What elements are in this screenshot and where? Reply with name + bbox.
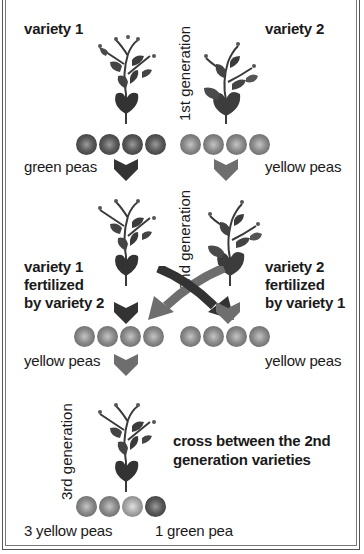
yellow-pea (203, 134, 224, 155)
three-yellow-peas-label: 3 yellow peas (24, 522, 112, 539)
yellow-pea (74, 326, 95, 347)
one-green-pea-label: 1 green pea (155, 522, 233, 539)
gen2-left-label-line: fertilized (24, 276, 84, 293)
gen2-left-peas-label: yellow peas (24, 352, 100, 369)
yellow-pea (99, 496, 120, 517)
down-arrow-icon (114, 159, 138, 181)
yellow-pea (180, 326, 201, 347)
variety-2-label: variety 2 (265, 20, 324, 37)
yellow-pea (249, 134, 270, 155)
yellow-peas-label: yellow peas (265, 158, 341, 175)
down-arrow-icon (216, 302, 240, 324)
green-pea (76, 134, 97, 155)
yellow-pea (122, 496, 143, 517)
gen2-right-peas-label: yellow peas (265, 352, 341, 369)
gen3-description-line: generation varieties (173, 451, 311, 468)
down-arrow-icon (114, 302, 138, 324)
gen2-right-label-line: by variety 1 (265, 294, 345, 311)
gen3-description-line: cross between the 2nd (173, 432, 331, 449)
green-peas-label: green peas (24, 158, 97, 175)
generation-3-label: 3rd generation (58, 403, 75, 500)
yellow-pea (97, 326, 118, 347)
yellow-pea (76, 496, 97, 517)
gen2-left-label-line: variety 1 (24, 258, 83, 275)
green-pea (145, 134, 166, 155)
plant-icon (196, 38, 266, 124)
variety-1-label: variety 1 (24, 20, 83, 37)
gen2-right-label-line: fertilized (265, 276, 325, 293)
generation-1-label: 1st generation (176, 26, 193, 121)
plant-icon (92, 34, 164, 124)
yellow-pea (203, 326, 224, 347)
green-pea (145, 496, 166, 517)
gen2-left-label-line: by variety 2 (24, 294, 104, 311)
yellow-pea (249, 326, 270, 347)
yellow-pea (120, 326, 141, 347)
down-arrow-icon (214, 159, 238, 181)
plant-icon (92, 400, 164, 492)
yellow-pea (226, 134, 247, 155)
yellow-pea (180, 134, 201, 155)
green-pea (122, 134, 143, 155)
yellow-pea (143, 326, 164, 347)
down-arrow-icon (114, 354, 138, 376)
yellow-pea (226, 326, 247, 347)
green-pea (99, 134, 120, 155)
gen2-right-label-line: variety 2 (265, 258, 324, 275)
